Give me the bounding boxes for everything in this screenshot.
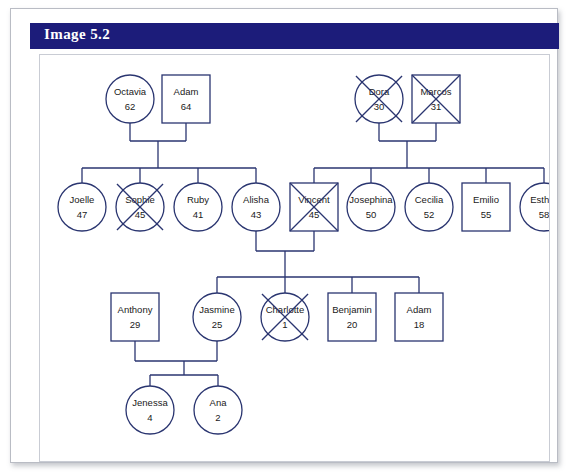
person-node-alisha[interactable]: Alisha43 <box>232 183 280 231</box>
female-circle-esther <box>520 183 549 231</box>
person-age-octavia: 62 <box>125 101 136 112</box>
male-square-adam64 <box>162 75 210 123</box>
person-name-josephina: Josephina <box>349 194 393 205</box>
female-circle-octavia <box>106 75 154 123</box>
person-nodes-layer: Octavia62Adam64Dora30Marcos31Joelle47Sop… <box>58 75 549 434</box>
person-age-ruby: 41 <box>193 209 204 220</box>
person-age-jasmine: 25 <box>212 319 223 330</box>
person-age-joelle: 47 <box>77 209 88 220</box>
person-node-vincent[interactable]: Vincent45 <box>290 183 338 231</box>
person-age-jenessa: 4 <box>147 412 152 423</box>
person-name-ruby: Ruby <box>187 194 209 205</box>
person-age-alisha: 43 <box>251 209 262 220</box>
person-node-sophie[interactable]: Sophie45 <box>116 183 164 231</box>
female-circle-alisha <box>232 183 280 231</box>
person-node-marcos[interactable]: Marcos31 <box>412 75 460 123</box>
male-square-adam18 <box>395 293 443 341</box>
image-caption-text: Image 5.2 <box>44 26 110 43</box>
person-node-josephina[interactable]: Josephina50 <box>347 183 395 231</box>
connector-lines-layer <box>82 123 544 386</box>
person-node-jasmine[interactable]: Jasmine25 <box>193 293 241 341</box>
person-node-esther[interactable]: Esther58 <box>520 183 549 231</box>
male-square-anthony <box>111 293 159 341</box>
person-name-joelle: Joelle <box>70 194 95 205</box>
person-name-ana: Ana <box>210 397 228 408</box>
person-name-cecilia: Cecilia <box>415 194 444 205</box>
person-age-ana: 2 <box>215 412 220 423</box>
image-caption-bar: Image 5.2 <box>30 23 559 49</box>
person-age-emilio: 55 <box>481 209 492 220</box>
person-node-dora[interactable]: Dora30 <box>355 75 403 123</box>
person-node-joelle[interactable]: Joelle47 <box>58 183 106 231</box>
person-node-jenessa[interactable]: Jenessa4 <box>126 386 174 434</box>
person-name-benjamin: Benjamin <box>332 304 372 315</box>
person-age-adam18: 18 <box>414 319 425 330</box>
person-name-octavia: Octavia <box>114 86 147 97</box>
female-circle-cecilia <box>405 183 453 231</box>
person-age-adam64: 64 <box>181 101 192 112</box>
person-name-adam64: Adam <box>174 86 199 97</box>
person-name-esther: Esther <box>530 194 549 205</box>
person-age-benjamin: 20 <box>347 319 358 330</box>
person-node-anthony[interactable]: Anthony29 <box>111 293 159 341</box>
person-name-anthony: Anthony <box>118 304 153 315</box>
male-square-emilio <box>462 183 510 231</box>
person-node-cecilia[interactable]: Cecilia52 <box>405 183 453 231</box>
person-node-charlotte[interactable]: Charlotte1 <box>261 293 309 341</box>
person-name-alisha: Alisha <box>243 194 270 205</box>
genogram-svg: Octavia62Adam64Dora30Marcos31Joelle47Sop… <box>40 55 549 461</box>
person-name-adam18: Adam <box>407 304 432 315</box>
person-name-sophie: Sophie <box>125 194 155 205</box>
person-age-charlotte: 1 <box>282 319 287 330</box>
person-node-adam18[interactable]: Adam18 <box>395 293 443 341</box>
person-name-emilio: Emilio <box>473 194 499 205</box>
female-circle-jenessa <box>126 386 174 434</box>
female-circle-josephina <box>347 183 395 231</box>
person-node-adam64[interactable]: Adam64 <box>162 75 210 123</box>
female-circle-ruby <box>174 183 222 231</box>
person-age-cecilia: 52 <box>424 209 435 220</box>
person-name-jenessa: Jenessa <box>132 397 168 408</box>
person-age-anthony: 29 <box>130 319 141 330</box>
person-age-esther: 58 <box>539 209 549 220</box>
person-node-ana[interactable]: Ana2 <box>194 386 242 434</box>
genogram-diagram-frame: Octavia62Adam64Dora30Marcos31Joelle47Sop… <box>39 54 550 462</box>
person-age-josephina: 50 <box>366 209 377 220</box>
female-circle-ana <box>194 386 242 434</box>
person-node-ruby[interactable]: Ruby41 <box>174 183 222 231</box>
person-node-octavia[interactable]: Octavia62 <box>106 75 154 123</box>
page-card: Image 5.2 Octavia62Adam64Dora30Marcos31J… <box>10 8 558 463</box>
female-circle-jasmine <box>193 293 241 341</box>
person-name-charlotte: Charlotte <box>266 304 305 315</box>
female-circle-joelle <box>58 183 106 231</box>
person-name-jasmine: Jasmine <box>199 304 234 315</box>
person-node-emilio[interactable]: Emilio55 <box>462 183 510 231</box>
male-square-benjamin <box>328 293 376 341</box>
person-node-benjamin[interactable]: Benjamin20 <box>328 293 376 341</box>
